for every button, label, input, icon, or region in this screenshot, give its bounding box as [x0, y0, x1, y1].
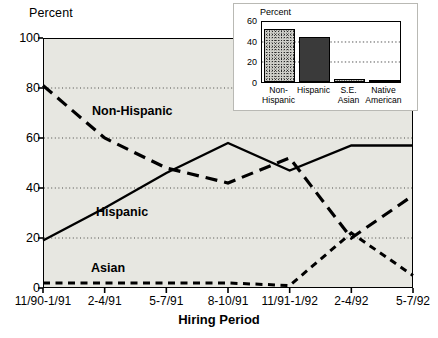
- inset-category-2: S.E.Asian: [338, 85, 360, 105]
- x-tick-4: 11/91-1/92: [261, 294, 318, 308]
- inset-category-line: Native: [365, 85, 401, 95]
- inset-category-line: Hispanic: [297, 85, 330, 95]
- inset-y-tick-40: 40: [235, 37, 257, 47]
- series-label-hispanic: Hispanic: [96, 205, 148, 219]
- inset-y-axis-title: Percent: [260, 7, 291, 17]
- x-axis-title: Hiring Period: [0, 312, 438, 327]
- inset-plot-area: [261, 21, 401, 83]
- series-label-asian: Asian: [91, 261, 125, 275]
- inset-bar-3: [369, 80, 400, 82]
- x-tick-2: 5-7/91: [149, 294, 183, 308]
- series-line-hispanic: [43, 143, 413, 241]
- x-tick-1: 2-4/91: [88, 294, 122, 308]
- inset-category-3: NativeAmerican: [365, 85, 401, 105]
- inset-category-line: Non-: [262, 85, 295, 95]
- inset-category-line: Asian: [338, 95, 360, 105]
- x-tick-5: 2-4/92: [334, 294, 368, 308]
- series-label-non-hispanic: Non-Hispanic: [92, 104, 173, 118]
- inset-category-line: Hispanic: [262, 95, 295, 105]
- inset-bar-2: [334, 79, 365, 82]
- inset-y-tick-60: 60: [235, 16, 257, 26]
- inset-category-line: S.E.: [338, 85, 360, 95]
- chart-figure: Percent 020406080100 Non-Hispanic Hispan…: [0, 0, 438, 338]
- inset-y-tick-20: 20: [235, 57, 257, 67]
- inset-bar-1: [299, 37, 330, 82]
- inset-y-tick-0: 0: [235, 78, 257, 88]
- x-tick-3: 8-10/91: [208, 294, 249, 308]
- x-tick-0: 11/90-1/91: [15, 294, 72, 308]
- inset-category-0: Non-Hispanic: [262, 85, 295, 105]
- inset-bar-0: [264, 29, 295, 82]
- x-tick-6: 5-7/92: [396, 294, 430, 308]
- series-line-asian: [43, 233, 413, 286]
- inset-bar-chart: Percent 0204060 Non-HispanicHispanicS.E.…: [233, 3, 418, 111]
- inset-category-line: American: [365, 95, 401, 105]
- inset-category-1: Hispanic: [297, 85, 330, 95]
